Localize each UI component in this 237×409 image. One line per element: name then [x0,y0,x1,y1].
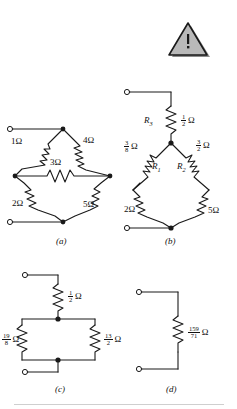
b-label-R1: R1 [152,162,161,173]
c-label-13-2-ohm: 132 Ω [104,333,121,348]
b-label-R3: R3 [144,116,153,127]
b-label-5ohm: 5Ω [208,206,219,215]
b-left-wire [133,183,140,190]
b-top-terminal [124,89,129,94]
d-bottom-terminal [136,366,141,371]
caption-b: (b) [165,236,176,246]
caption-a: (a) [56,236,67,246]
b-resistor-5ohm [171,190,209,228]
b-resistor-2ohm [133,190,171,228]
bottom-rule [14,404,224,405]
a-label-4ohm: 4Ω [83,136,94,145]
caption-d: (d) [166,384,177,394]
a-label-2ohm: 2Ω [12,199,23,208]
c-resistor-half-ohm [53,284,63,318]
a-label-5ohm: 5Ω [83,200,94,209]
b-resistor-R3 [166,106,176,142]
b-label-3-8-ohm: 38 Ω [124,140,138,155]
a-label-3ohm: 3Ω [50,158,61,167]
caption-c: (c) [55,384,65,394]
b-label-half-ohm: 12 Ω [181,114,195,129]
a-bottom-terminal [7,219,12,224]
b-bottom-terminal [124,225,129,230]
d-resistor-159-71 [173,316,183,352]
c-label-19-8-ohm: 198 Ω [2,333,19,348]
c-bottom-terminal [22,369,27,374]
c-label-half-ohm: 12 Ω [68,290,82,305]
c-resistor-13-2 [90,325,100,360]
b-label-R2: R2 [177,162,186,173]
c-top-terminal [22,272,27,277]
a-resistor-3ohm [15,170,110,182]
a-label-1ohm: 1Ω [11,137,22,146]
figure-root: 1Ω 4Ω 3Ω 2Ω 5Ω (a) R3 12 Ω 38 Ω 32 Ω R1 … [0,0,237,409]
d-label-159-71-ohm: 15971 Ω [188,326,208,341]
b-label-2ohm: 2Ω [124,205,135,214]
d-top-terminal [136,289,141,294]
b-label-3-2-ohm: 32 Ω [196,139,210,154]
a-top-terminal [7,126,12,131]
